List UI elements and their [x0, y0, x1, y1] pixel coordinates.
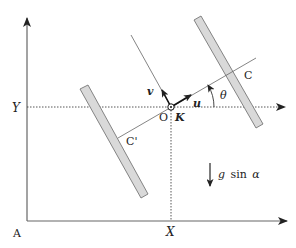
- label-point-k: K: [174, 111, 185, 124]
- label-origin-a: A: [12, 227, 22, 240]
- bar-right: [194, 16, 263, 128]
- theta-arc: [208, 85, 214, 107]
- bar-left: [80, 85, 148, 198]
- label-gravity-alpha: α: [252, 168, 260, 181]
- label-point-o: O: [159, 111, 168, 124]
- diagram-svg: A X Y O K C C' u v θ g sin α: [0, 0, 296, 248]
- label-point-c: C: [244, 69, 252, 82]
- diagram-canvas: A X Y O K C C' u v θ g sin α: [0, 0, 296, 248]
- label-gravity-g: g: [218, 168, 225, 181]
- label-point-c-prime: C': [126, 135, 137, 148]
- label-vector-u: u: [193, 97, 201, 110]
- label-angle-theta: θ: [220, 89, 227, 102]
- label-gravity-sin: sin: [231, 168, 247, 181]
- label-x-axis: X: [165, 225, 175, 239]
- label-gravity: g sin α: [218, 168, 260, 181]
- label-vector-v: v: [147, 85, 154, 98]
- point-k-dot: [170, 106, 172, 108]
- label-y-axis: Y: [12, 101, 21, 115]
